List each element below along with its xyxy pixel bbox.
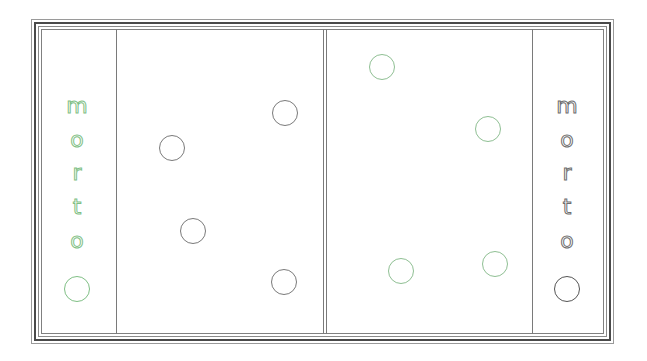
- gray-reserve-piece[interactable]: [554, 276, 580, 302]
- green-piece[interactable]: [475, 116, 501, 142]
- left-label-letter: o: [57, 129, 97, 151]
- center-divider: [323, 29, 327, 334]
- left-label-letter: o: [57, 230, 97, 252]
- left-label-letter: m: [57, 95, 97, 117]
- left-side-divider: [116, 29, 117, 334]
- game-stage: m o r t o m o r t o: [0, 0, 647, 361]
- right-label-letter: m: [547, 95, 587, 117]
- gray-piece[interactable]: [272, 100, 298, 126]
- gray-piece[interactable]: [180, 218, 206, 244]
- right-label-letter: r: [547, 162, 587, 184]
- green-piece[interactable]: [369, 54, 395, 80]
- green-reserve-piece[interactable]: [64, 276, 90, 302]
- right-label-letter: o: [547, 129, 587, 151]
- right-label-letter: o: [547, 230, 587, 252]
- left-label-letter: r: [57, 162, 97, 184]
- right-label-letter: t: [547, 196, 587, 218]
- gray-piece[interactable]: [271, 269, 297, 295]
- green-piece[interactable]: [388, 258, 414, 284]
- left-label-letter: t: [57, 196, 97, 218]
- green-piece[interactable]: [482, 251, 508, 277]
- gray-piece[interactable]: [159, 135, 185, 161]
